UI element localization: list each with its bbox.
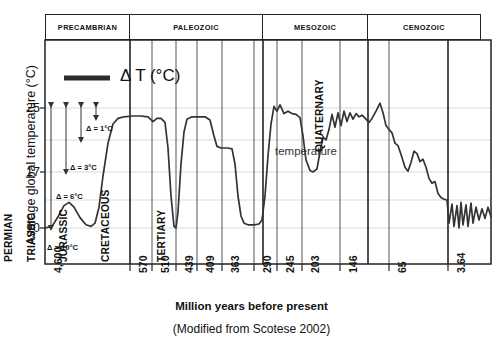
x-tick-label-3.64: 3.64 (455, 233, 467, 273)
period-label-quaternary: QUATERNARY (314, 79, 466, 152)
delta-label-1c: Δ = 1°C (86, 124, 113, 133)
x-tick-label-65: 65 (396, 233, 408, 273)
x-tick-label-290: 290 (261, 233, 273, 273)
x-tick-label-409: 409 (204, 233, 216, 273)
temperature-through-geologic-time-chart: Average global temperature (°C) 25 17 10… (0, 0, 503, 342)
x-tick-label-510: 510 (159, 233, 171, 273)
x-tick-label-439: 439 (183, 233, 195, 273)
legend-label-delta-t: Δ T (°C) (120, 66, 180, 86)
x-tick-label-203: 203 (309, 233, 321, 273)
x-tick-label-363: 363 (229, 233, 241, 273)
x-tick-label-570: 570 (137, 233, 149, 273)
x-tick-label-146: 146 (347, 233, 359, 273)
x-axis-title: Million years before present (0, 300, 503, 312)
figure-caption: (Modified from Scotese 2002) (0, 322, 503, 336)
x-tick-label-245: 245 (284, 233, 296, 273)
x-tick-label-4600: 4,600 (52, 233, 64, 273)
